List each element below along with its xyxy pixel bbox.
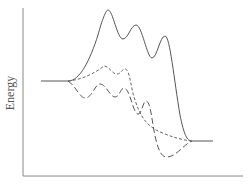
long-dashed-energy-path [68, 81, 192, 157]
energy-profile-chart [0, 0, 248, 188]
solid-energy-path [41, 10, 213, 141]
short-dashed-energy-path [68, 66, 192, 141]
y-axis-label: Energy [3, 68, 17, 118]
